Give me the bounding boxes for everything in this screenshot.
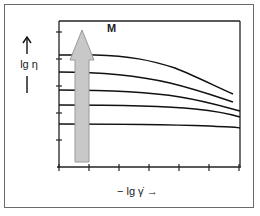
- m-label: M: [107, 22, 116, 34]
- x-axis-label: − lg γ̇ →: [117, 185, 158, 197]
- m-increase-arrow-icon: [70, 30, 94, 162]
- plot-area: [0, 0, 260, 216]
- y-axis-label: lg η: [17, 34, 41, 72]
- y-axis-label-text: lg η: [17, 58, 41, 70]
